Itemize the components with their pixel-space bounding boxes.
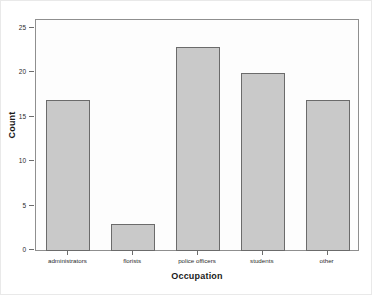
bar bbox=[111, 224, 155, 251]
y-axis-title: Count bbox=[7, 95, 17, 155]
plot-area bbox=[35, 19, 359, 251]
y-tick-mark bbox=[29, 160, 34, 161]
y-tick-label: 20 bbox=[0, 67, 26, 76]
y-tick-mark bbox=[29, 71, 34, 72]
x-tick-mark bbox=[327, 251, 328, 255]
x-axis-category-label: administrators bbox=[35, 256, 100, 265]
bar bbox=[241, 73, 285, 251]
x-tick-mark bbox=[262, 251, 263, 255]
y-tick-label: 10 bbox=[0, 156, 26, 165]
x-axis-category-label: florists bbox=[100, 256, 165, 265]
y-tick-label: 15 bbox=[0, 112, 26, 121]
bar-chart: Count 2520151050 administratorsfloristsp… bbox=[0, 0, 372, 295]
y-tick-label: 0 bbox=[0, 245, 26, 254]
x-axis-title: Occupation bbox=[35, 271, 359, 281]
y-tick-label: 5 bbox=[0, 201, 26, 210]
bar bbox=[176, 47, 220, 251]
x-axis-category-label: police officers bbox=[165, 256, 230, 265]
bar bbox=[306, 100, 350, 251]
bar bbox=[46, 100, 90, 251]
x-tick-mark bbox=[67, 251, 68, 255]
x-axis-category-label: students bbox=[229, 256, 294, 265]
y-tick-mark bbox=[29, 116, 34, 117]
x-tick-mark bbox=[132, 251, 133, 255]
y-tick-mark bbox=[29, 249, 34, 250]
x-axis-category-label: other bbox=[294, 256, 359, 265]
y-tick-label: 25 bbox=[0, 23, 26, 32]
x-tick-mark bbox=[197, 251, 198, 255]
y-tick-mark bbox=[29, 27, 34, 28]
y-tick-mark bbox=[29, 205, 34, 206]
